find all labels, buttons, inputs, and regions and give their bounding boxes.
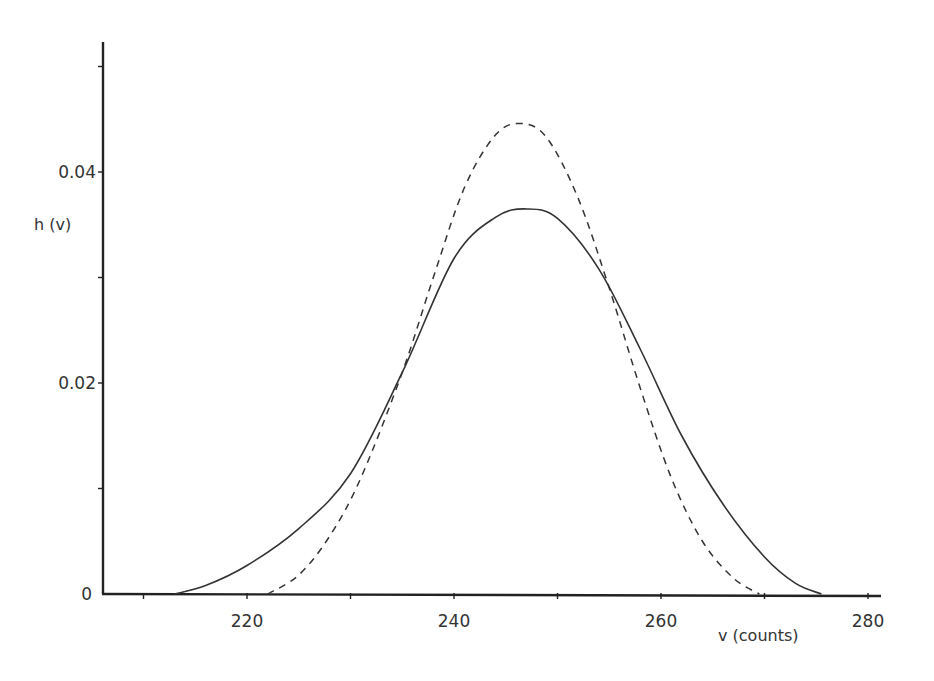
x-tick-label: 260 (645, 611, 677, 631)
y-tick-label: 0.04 (58, 162, 96, 182)
y-tick-label: 0.02 (58, 373, 96, 393)
x-axis-title: v (counts) (718, 626, 799, 645)
dashed-curve (268, 123, 760, 594)
x-tick-label: 240 (438, 611, 470, 631)
series-layer (175, 123, 822, 594)
axes: 22024026028000.020.04 (58, 42, 884, 631)
x-tick-label: 280 (852, 611, 884, 631)
axis-labels: h (v) v (counts) (34, 215, 799, 645)
y-tick-label: 0 (81, 584, 92, 604)
y-axis-title: h (v) (34, 215, 71, 234)
solid-curve (175, 209, 822, 594)
chart: 22024026028000.020.04 h (v) v (counts) (0, 0, 934, 681)
x-tick-label: 220 (231, 611, 263, 631)
